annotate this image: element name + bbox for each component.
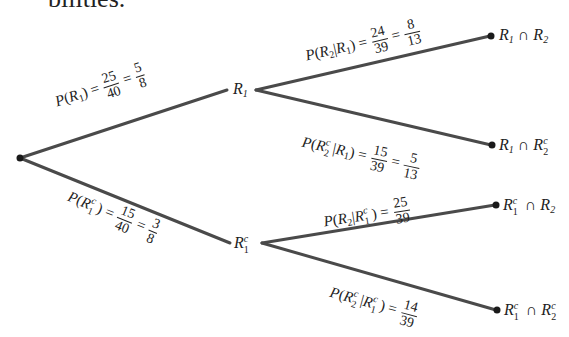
outcome-dot-2	[489, 142, 496, 149]
fraction: 1539	[368, 143, 390, 176]
outcome-dot-4	[494, 307, 501, 314]
outcome-r1c-and-r2: Rc1 ∩ R2	[503, 196, 555, 215]
outcome-r1-and-r2: R1 ∩ R2	[499, 26, 548, 45]
outcome-r1c-and-r2c: Rc1 ∩ Rc2	[504, 301, 559, 319]
outcome-dot-3	[493, 202, 500, 209]
node-r1: R1	[233, 80, 248, 99]
fraction: 2439	[368, 24, 390, 57]
root-node-dot	[17, 155, 24, 162]
node-r1c: Rc1	[234, 234, 252, 252]
outcome-r1-and-r2c: R1 ∩ Rc2	[499, 136, 551, 155]
fraction: 2539	[391, 195, 412, 228]
fraction: 1540	[112, 203, 138, 237]
branch-r1-r2c	[256, 90, 491, 145]
branch-root-r1	[20, 90, 227, 158]
tree-diagram	[0, 0, 569, 337]
outcome-dot-1	[488, 33, 495, 40]
